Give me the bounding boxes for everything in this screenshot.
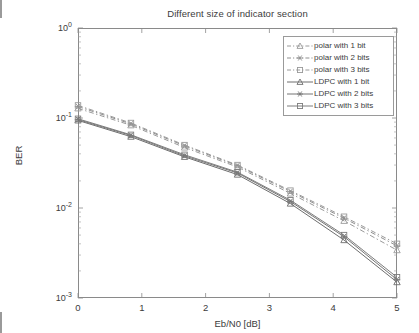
legend-swatch-ldpc-3bits — [286, 100, 314, 112]
chart-series-5 — [75, 116, 399, 280]
legend-swatch-polar-3bits — [286, 64, 314, 76]
legend-label-ldpc-1bit: LDPC with 1 bit — [314, 76, 369, 88]
legend-swatch-ldpc-1bit — [286, 76, 314, 88]
legend-item-polar-1bit[interactable]: polar with 1 bit — [286, 40, 391, 52]
legend-item-polar-3bits[interactable]: polar with 3 bits — [286, 64, 391, 76]
legend-swatch-polar-2bits — [286, 52, 314, 64]
legend-item-polar-2bits[interactable]: polar with 2 bits — [286, 52, 391, 64]
legend-label-polar-1bit: polar with 1 bit — [314, 40, 366, 52]
figure-canvas: Different size of indicator section 100 … — [0, 0, 419, 333]
legend-label-ldpc-2bits: LDPC with 2 bits — [314, 88, 373, 100]
legend-swatch-ldpc-2bits — [286, 88, 314, 100]
chart-series-0 — [75, 105, 400, 253]
legend-label-polar-3bits: polar with 3 bits — [314, 64, 370, 76]
legend-swatch-polar-1bit — [286, 40, 314, 52]
legend-label-ldpc-3bits: LDPC with 3 bits — [314, 100, 373, 112]
legend-item-ldpc-1bit[interactable]: LDPC with 1 bit — [286, 76, 391, 88]
legend-item-ldpc-2bits[interactable]: LDPC with 2 bits — [286, 88, 391, 100]
legend-item-ldpc-3bits[interactable]: LDPC with 3 bits — [286, 100, 391, 112]
chart-series-4 — [75, 117, 400, 282]
chart-series-3 — [75, 117, 400, 284]
legend-label-polar-2bits: polar with 2 bits — [314, 52, 370, 64]
chart-legend: polar with 1 bit polar with 2 bits polar… — [283, 36, 394, 116]
chart-series-1 — [75, 104, 400, 249]
